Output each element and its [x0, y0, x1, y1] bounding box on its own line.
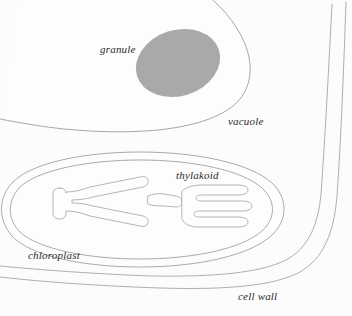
label-chloroplast: chloroplast — [28, 250, 80, 261]
diagram-drawing — [0, 0, 352, 316]
label-thylakoid: thylakoid — [176, 170, 219, 181]
label-cell-wall: cell wall — [238, 291, 277, 302]
label-vacuole: vacuole — [228, 116, 264, 127]
thylakoid-lobe-right — [182, 185, 252, 227]
cell-diagram-canvas: granule vacuole thylakoid chloroplast ce… — [0, 0, 352, 316]
label-granule: granule — [100, 44, 136, 55]
